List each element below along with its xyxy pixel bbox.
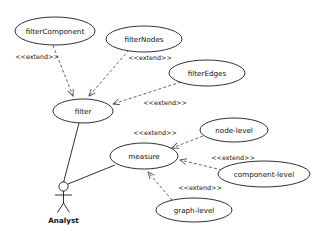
use-case-label: filterComponent — [26, 27, 85, 36]
extend-label-filternodes: <<extend>> — [128, 54, 172, 62]
extend-line-nodelevel-measure — [172, 136, 203, 148]
actor-head-icon — [59, 182, 68, 191]
extend-label-componentlevel: <<extend>> — [211, 154, 255, 162]
use-case-filternodes[interactable]: filterNodes — [106, 26, 182, 52]
use-case-label: component-level — [234, 170, 294, 179]
actor-leg-right — [64, 203, 70, 213]
use-case-label: filterEdges — [188, 69, 227, 78]
diagram-canvas: filterComponent filterNodes filterEdges … — [0, 0, 313, 236]
extend-label-graphlevel: <<extend>> — [178, 184, 222, 192]
extend-line-filternodes-filter — [89, 50, 129, 96]
use-case-label: graph-level — [174, 206, 215, 215]
use-case-measure[interactable]: measure — [110, 143, 178, 169]
use-case-graph-level[interactable]: graph-level — [156, 198, 232, 222]
use-case-filter[interactable]: filter — [53, 99, 113, 123]
use-case-filteredges[interactable]: filterEdges — [169, 60, 245, 86]
extend-line-graphlevel-measure — [148, 172, 172, 200]
use-case-node-level[interactable]: node-level — [200, 118, 268, 142]
actor-analyst[interactable]: Analyst — [48, 182, 79, 225]
actor-leg-left — [58, 203, 64, 213]
use-case-label: node-level — [215, 126, 253, 135]
association-lines — [64, 123, 116, 184]
association-analyst-measure — [68, 165, 115, 184]
use-case-label: measure — [128, 152, 160, 161]
uml-use-case-diagram: filterComponent filterNodes filterEdges … — [0, 0, 313, 236]
use-case-filtercomponent[interactable]: filterComponent — [15, 17, 95, 45]
actor-label: Analyst — [48, 216, 79, 225]
extend-label-filteredges: <<extend>> — [143, 99, 187, 107]
extend-label-filtercomponent: <<extend>> — [15, 53, 59, 61]
use-case-component-level[interactable]: component-level — [218, 161, 310, 187]
association-analyst-filter — [64, 123, 80, 183]
use-case-label: filter — [75, 107, 92, 116]
extend-label-nodelevel: <<extend>> — [133, 129, 177, 137]
use-case-label: filterNodes — [124, 35, 163, 44]
